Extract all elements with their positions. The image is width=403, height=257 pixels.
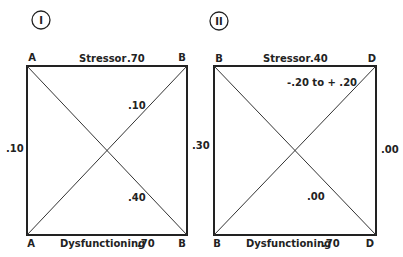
corner-label-bottom-right: D: [366, 238, 374, 249]
corner-label-bottom-right: B: [178, 238, 186, 249]
corner-label-top-left: A: [28, 52, 36, 63]
corner-label-top-right: B: [178, 52, 186, 63]
bottom-edge-value: .70: [137, 238, 155, 249]
top-edge-name: Stressor: [79, 53, 126, 64]
right-edge-value: .30: [192, 140, 210, 151]
bottom-edge-name: Dysfunctioning: [60, 238, 145, 249]
top-edge-name: Stressor: [263, 53, 310, 64]
corner-label-top-right: D: [368, 53, 376, 64]
corner-label-bottom-left: A: [27, 238, 35, 249]
diagonal-lower-value: .00: [307, 191, 325, 202]
cross-lagged-diagrams: I A B A B Stressor .70 Dysfunctioning .7…: [0, 0, 403, 257]
top-edge-value: .40: [310, 53, 328, 64]
diagonal-upper-value: .10: [128, 100, 146, 111]
roman-numeral-i: I: [39, 15, 43, 26]
diagram-ii: II B D B D Stressor .40 Dysfunctioning .…: [210, 12, 399, 249]
right-edge-value: .00: [381, 144, 399, 155]
bottom-edge-value: .70: [322, 238, 340, 249]
corner-label-top-left: B: [215, 53, 223, 64]
top-edge-value: .70: [127, 53, 145, 64]
bottom-edge-name: Dysfunctioning: [246, 238, 331, 249]
diagonal-lower-value: .40: [128, 192, 146, 203]
roman-numeral-ii: II: [215, 16, 222, 27]
corner-label-bottom-left: B: [213, 238, 221, 249]
left-edge-value: .10: [6, 143, 24, 154]
diagram-i: I A B A B Stressor .70 Dysfunctioning .7…: [6, 11, 210, 249]
diagonal-upper-value: -.20 to + .20: [287, 77, 357, 88]
